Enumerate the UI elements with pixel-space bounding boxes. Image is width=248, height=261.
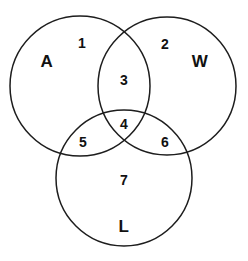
region-label-6: 6 [161, 135, 169, 149]
region-label-1: 1 [78, 36, 86, 50]
region-label-3: 3 [120, 73, 128, 87]
region-label-5: 5 [79, 135, 87, 149]
venn-diagram: A W L 1 2 3 4 5 6 7 [0, 0, 248, 261]
set-label-a: A [41, 53, 54, 70]
region-label-4: 4 [120, 117, 128, 131]
set-label-w: W [192, 53, 209, 70]
region-label-7: 7 [120, 173, 128, 187]
set-label-l: L [119, 218, 130, 235]
region-label-2: 2 [161, 37, 169, 51]
